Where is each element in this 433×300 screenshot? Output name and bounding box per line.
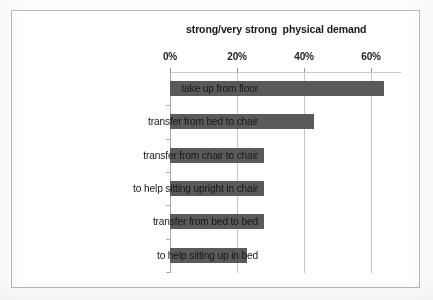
y-axis-tickmark [166,139,171,140]
chart-title: strong/very strong physical demand [186,23,396,35]
y-axis-tickmark [166,105,171,106]
x-axis-tick-label: 20% [227,51,246,62]
y-axis-tickmark [166,239,171,240]
x-axis-tick-label: 60% [361,51,380,62]
y-axis-tickmark [166,272,171,273]
category-label: to help sitting up in bed [157,250,258,261]
category-label: to help sitting upright in chair [133,183,258,194]
y-axis-tickmark [166,172,171,173]
y-axis-tickmark [166,205,171,206]
category-label: transfer from bed to chair [148,116,258,127]
x-axis-tick-label: 40% [294,51,313,62]
category-label: transfer from chair to chair [143,150,258,161]
category-label: transfer from bed to bed [153,216,258,227]
x-axis-tick-label: 0% [163,51,177,62]
category-label: take up from floor [181,83,258,94]
